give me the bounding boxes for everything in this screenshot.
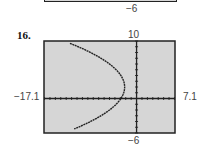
graph-window <box>0 0 202 154</box>
graph-frame <box>44 41 175 133</box>
